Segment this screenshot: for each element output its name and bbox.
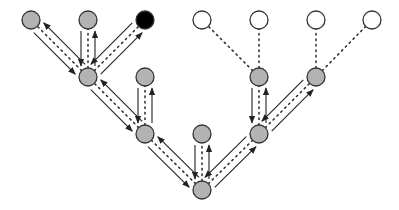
arrow-outgoing: [272, 90, 313, 131]
node-visited: [79, 11, 97, 29]
node-current: [136, 11, 154, 29]
dotted-edge-line: [208, 140, 252, 183]
arrow-returning: [262, 80, 303, 121]
node-unvisited: [193, 11, 211, 29]
node-visited: [193, 181, 211, 199]
node-visited: [136, 68, 154, 86]
edge-b4-a7: [322, 26, 365, 70]
dotted-edge-line: [322, 26, 365, 70]
edge-b3-a4: [208, 26, 252, 70]
edge-c3-b4: [262, 80, 313, 131]
dotted-edge-line: [94, 26, 138, 70]
edges-layer: [34, 23, 366, 187]
node-visited: [22, 11, 40, 29]
node-visited: [250, 68, 268, 86]
node-visited: [307, 68, 325, 86]
edge-b1-a1: [34, 23, 85, 74]
dotted-edge-line: [208, 26, 252, 70]
arrow-returning: [148, 147, 189, 188]
dotted-edge-line: [94, 83, 138, 127]
arrow-returning: [34, 33, 75, 74]
dotted-edge-line: [265, 83, 309, 127]
arrow-returning: [205, 137, 246, 178]
node-visited: [136, 125, 154, 143]
nodes-layer: [22, 11, 381, 199]
edge-d1-c3: [205, 137, 256, 188]
node-visited: [250, 125, 268, 143]
edge-b1-a3: [91, 23, 142, 74]
edge-d1-c1: [148, 137, 199, 188]
arrow-outgoing: [44, 23, 85, 64]
arrow-outgoing: [101, 80, 142, 121]
tree-traversal-diagram: [0, 0, 399, 210]
arrow-returning: [91, 23, 132, 64]
arrow-outgoing: [101, 33, 142, 74]
node-visited: [79, 68, 97, 86]
dotted-edge-line: [151, 140, 195, 183]
node-unvisited: [363, 11, 381, 29]
edge-c1-b1: [91, 80, 142, 131]
arrow-outgoing: [215, 147, 256, 188]
arrow-returning: [91, 90, 132, 131]
node-visited: [193, 125, 211, 143]
dotted-edge-line: [37, 26, 81, 70]
node-unvisited: [307, 11, 325, 29]
node-unvisited: [250, 11, 268, 29]
arrow-outgoing: [158, 137, 199, 178]
